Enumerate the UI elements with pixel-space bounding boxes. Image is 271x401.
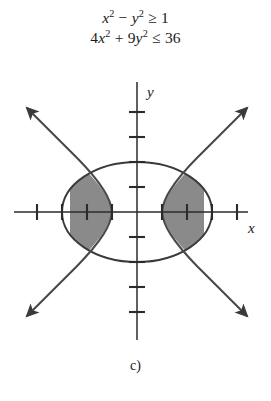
y-axis-label: y xyxy=(145,84,154,100)
equations-block: x2 − y2 ≥ 1 4x2 + 9y2 ≤ 36 xyxy=(0,8,271,49)
figure-root: x2 − y2 ≥ 1 4x2 + 9y2 ≤ 36 xyxy=(0,0,271,401)
inequality-2-exp-y: 2 xyxy=(143,28,148,39)
inequality-1: x2 − y2 ≥ 1 xyxy=(0,8,271,28)
inequality-2-coef-x: 4 xyxy=(90,29,98,46)
inequality-1-operator: − xyxy=(119,9,128,26)
inequality-2-coef-y: 9 xyxy=(128,29,136,46)
graph-svg: y x xyxy=(0,55,271,355)
x-axis-label: x xyxy=(247,220,255,236)
inequality-1-exp-y: 2 xyxy=(139,8,144,19)
coordinate-plane: y x xyxy=(0,55,271,355)
inequality-2-var-y: y xyxy=(136,29,143,46)
inequality-2-exp-x: 2 xyxy=(105,28,110,39)
inequality-1-rhs: 1 xyxy=(161,9,169,26)
figure-caption: c) xyxy=(0,358,271,374)
inequality-1-relation: ≥ xyxy=(148,9,157,26)
inequality-2-rhs: 36 xyxy=(165,29,181,46)
inequality-1-exp-x: 2 xyxy=(109,8,114,19)
inequality-2: 4x2 + 9y2 ≤ 36 xyxy=(0,28,271,48)
inequality-2-relation: ≤ xyxy=(152,29,161,46)
inequality-2-operator: + xyxy=(115,29,124,46)
inequality-1-var-y: y xyxy=(132,9,139,26)
